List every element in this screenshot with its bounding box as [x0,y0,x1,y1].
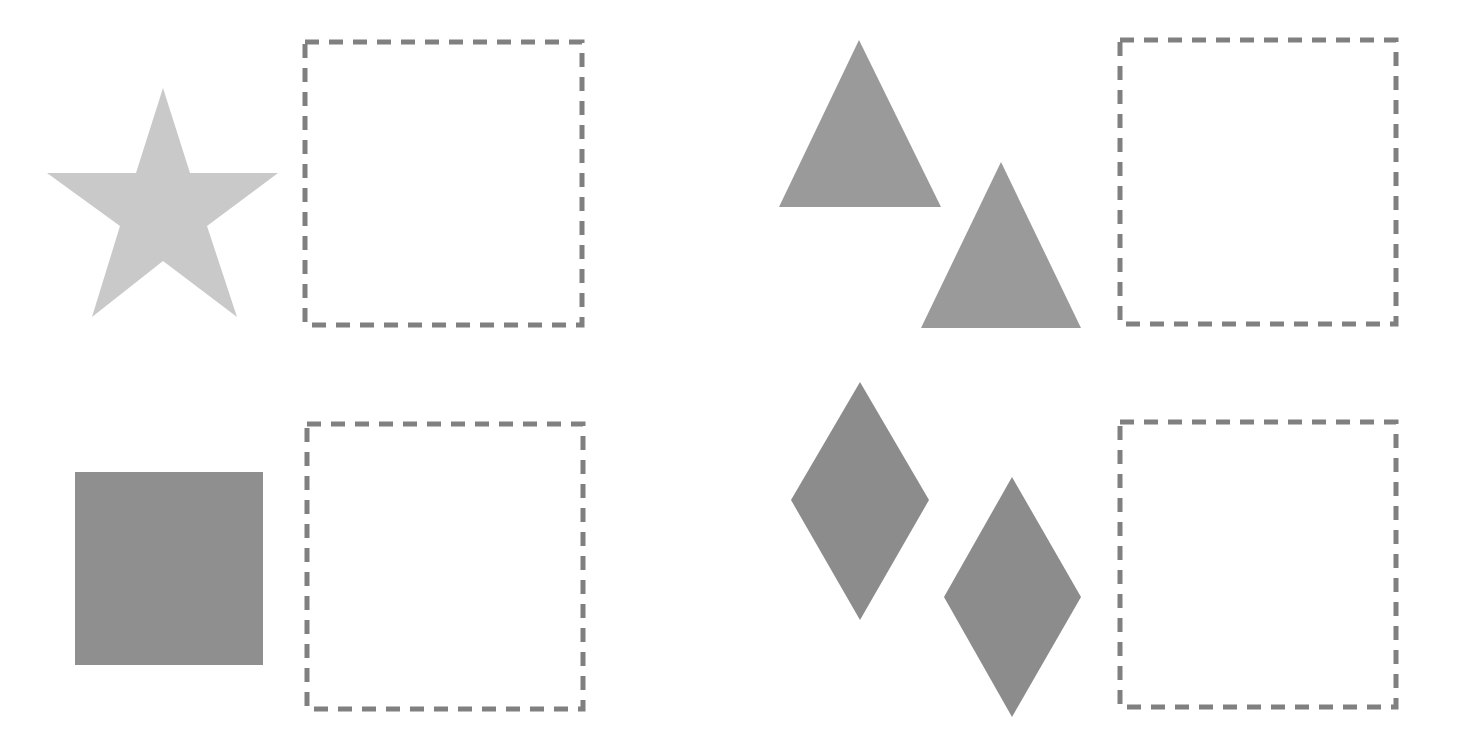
shape-matching-canvas [0,0,1464,741]
star-group [47,42,582,325]
diamond-shape[interactable] [944,477,1081,717]
square-group [75,424,583,709]
triangle-dropzone[interactable] [1120,40,1396,324]
triangle-shape[interactable] [921,162,1081,328]
diamond-shape[interactable] [791,382,929,620]
star-shape[interactable] [47,88,278,317]
square-shape[interactable] [75,472,263,665]
triangle-group [779,40,1396,328]
diamond-group [791,382,1396,717]
star-dropzone[interactable] [305,42,582,325]
triangle-shape[interactable] [779,40,941,207]
square-dropzone[interactable] [307,424,583,709]
diamond-dropzone[interactable] [1120,422,1396,707]
